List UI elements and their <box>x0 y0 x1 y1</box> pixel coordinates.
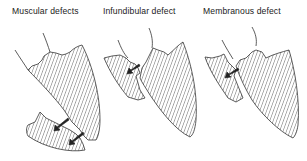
aortic-root-outline <box>43 33 50 52</box>
panel-membranous <box>205 27 298 138</box>
panel-infundibular <box>104 28 196 137</box>
septal-wall-outline <box>15 50 28 70</box>
ventricular-septum-main <box>236 50 298 138</box>
ventricular-septum-main <box>140 42 196 137</box>
aortic-root-outline <box>252 27 256 46</box>
aortic-root-outline <box>149 28 152 48</box>
defect-diagram <box>0 0 307 161</box>
panel-muscular <box>15 33 100 151</box>
outflow-septum-fragment <box>104 55 145 100</box>
membranous-septum-fragment <box>205 54 243 102</box>
